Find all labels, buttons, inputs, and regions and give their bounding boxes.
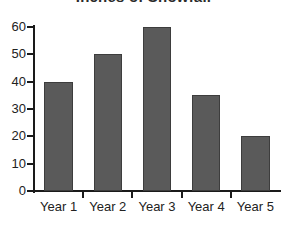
x-axis-tick-label: Year 1 bbox=[34, 200, 83, 213]
bar-chart: Inches of Snowfall 6050403020100 Year 1Y… bbox=[0, 0, 287, 233]
y-axis-tick-label: 10 bbox=[0, 157, 26, 170]
x-axis-tick-label: Year 5 bbox=[231, 200, 280, 213]
y-axis-tick-label: 20 bbox=[0, 129, 26, 142]
y-axis-tick bbox=[27, 190, 33, 192]
y-axis-tick-label: 0 bbox=[0, 184, 26, 197]
x-axis-tick-label: Year 2 bbox=[83, 200, 132, 213]
y-axis-tick bbox=[27, 26, 33, 28]
x-axis-tick bbox=[131, 192, 133, 198]
bar bbox=[192, 95, 221, 191]
y-axis-tick-labels: 6050403020100 bbox=[0, 0, 26, 233]
y-axis-tick-label: 60 bbox=[0, 20, 26, 33]
y-axis-tick bbox=[27, 135, 33, 137]
x-axis-tick bbox=[82, 192, 84, 198]
bar bbox=[241, 136, 270, 191]
x-axis-tick-label: Year 4 bbox=[182, 200, 231, 213]
x-axis-tick bbox=[230, 192, 232, 198]
y-axis-tick bbox=[27, 163, 33, 165]
y-axis-tick-label: 40 bbox=[0, 75, 26, 88]
y-axis-tick bbox=[27, 108, 33, 110]
y-axis-tick-label: 50 bbox=[0, 47, 26, 60]
bar bbox=[143, 27, 172, 191]
x-axis-tick-label: Year 3 bbox=[132, 200, 181, 213]
x-axis-tick-labels: Year 1Year 2Year 3Year 4Year 5 bbox=[34, 200, 280, 222]
plot-area bbox=[34, 27, 280, 191]
y-axis-tick-label: 30 bbox=[0, 102, 26, 115]
bar bbox=[44, 82, 73, 191]
x-axis-tick bbox=[181, 192, 183, 198]
y-axis-tick bbox=[27, 53, 33, 55]
chart-title: Inches of Snowfall bbox=[0, 0, 287, 5]
bar bbox=[94, 54, 123, 191]
y-axis-tick bbox=[27, 81, 33, 83]
